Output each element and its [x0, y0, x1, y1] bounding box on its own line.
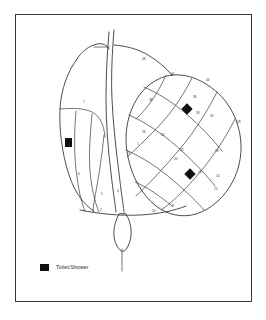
pitch-label: 20 — [174, 157, 178, 161]
entrance-island — [114, 214, 131, 251]
filled-square-icon — [40, 264, 49, 271]
pitch-label: 38 — [149, 98, 153, 102]
map-page: 48 41 44 38 36 33 30 28 26 24 22 20 18 1… — [0, 0, 266, 320]
pitch-number-labels: 48 41 44 38 36 33 30 28 26 24 22 20 18 1… — [78, 57, 241, 213]
pitch-label: 2 — [100, 208, 102, 212]
pitch-label: 4 — [117, 189, 119, 193]
west-lane-inner-left — [75, 111, 85, 211]
map-legend: Toilet/Shower — [40, 264, 89, 271]
pitch-label: 48 — [142, 57, 146, 61]
pitch-label: 16 — [198, 170, 202, 174]
legend-item-label: Toilet/Shower — [56, 265, 89, 270]
west-lane-curve-east — [93, 135, 104, 212]
pitch-label: 12 — [214, 187, 218, 191]
toilet-shower-west — [65, 138, 72, 147]
pitch-label: 44 — [206, 78, 210, 82]
central-spine-road — [112, 30, 124, 212]
pitch-label: 22 — [180, 148, 184, 152]
west-field-boundary — [60, 59, 94, 211]
west-lane-inner-right — [89, 114, 99, 212]
pitch-label: 8 — [172, 204, 174, 208]
pitch-label: 28 — [237, 120, 241, 124]
pitch-label: 33 — [196, 111, 200, 115]
pitch-label: 41 — [171, 72, 175, 76]
pitch-label: 26 — [142, 130, 146, 134]
east-lane-d1 — [136, 75, 166, 119]
pitch-label: 30 — [210, 114, 214, 118]
pitch-label: 24 — [161, 133, 165, 137]
east-lane-d4 — [161, 119, 235, 210]
pitch-label: 6 — [78, 172, 80, 176]
east-lane-c3 — [126, 150, 204, 210]
pitch-label: 14 — [216, 174, 220, 178]
pitch-label: 3 — [128, 151, 130, 155]
east-field-boundary — [126, 75, 241, 216]
pitch-label: 5 — [101, 192, 103, 196]
campsite-map-drawing: 48 41 44 38 36 33 30 28 26 24 22 20 18 1… — [16, 15, 253, 303]
map-frame: 48 41 44 38 36 33 30 28 26 24 22 20 18 1… — [15, 14, 252, 302]
east-lane-c1 — [144, 87, 222, 151]
west-lane-upper-branch — [60, 108, 105, 137]
east-lane-d3 — [136, 92, 217, 196]
pitch-label: 7 — [83, 100, 85, 104]
toilet-shower-north-east — [181, 103, 192, 114]
east-lane-c2 — [129, 115, 215, 186]
west-field-top-edge — [77, 44, 109, 59]
pitch-label: 36 — [193, 95, 197, 99]
facility-markers — [65, 103, 196, 179]
central-spine-road-west-side — [106, 32, 116, 212]
pitch-label: 18 — [215, 149, 219, 153]
east-lane-c4 — [135, 182, 172, 206]
pitch-label: 1 — [137, 142, 139, 146]
toilet-shower-south-east — [184, 168, 195, 179]
pitch-label: 10 — [152, 209, 156, 213]
